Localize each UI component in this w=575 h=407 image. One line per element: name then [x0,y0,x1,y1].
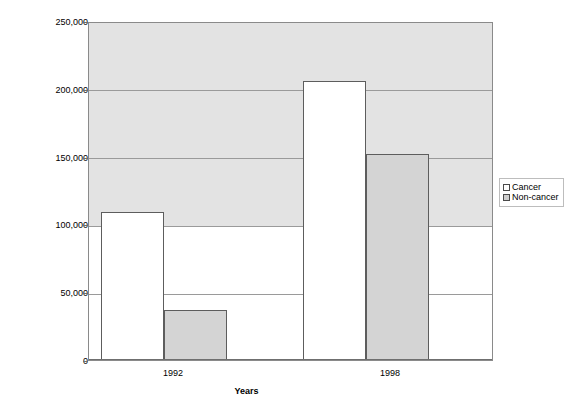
gridline-200000 [89,90,492,91]
plot-background-upper-band [89,23,492,226]
legend-label-cancer: Cancer [512,183,541,192]
y-tick-label-0: 0 [10,357,88,366]
x-axis-title-text: Years [234,386,258,396]
bar-cancer-1992 [101,212,164,360]
y-tick-label-250000: 250,000 [10,18,88,27]
x-tick-label-1992: 1992 [163,368,183,378]
bar-cancer-1998 [303,81,366,360]
gridline-150000 [89,158,492,159]
bar-chart: 250,000 200,000 150,000 100,000 50,000 0… [0,0,575,407]
y-tick-label-100000: 100,000 [10,221,88,230]
x-axis-baseline [89,359,492,360]
legend-label-noncancer: Non-cancer [512,193,559,202]
y-tick-mark-0 [83,361,88,362]
x-axis-title: Years [0,386,575,396]
white-square-swatch-icon [503,184,510,191]
plot-area [88,22,493,361]
bar-noncancer-1992 [164,310,227,360]
x-tick-label-1998: 1998 [380,368,400,378]
gray-square-swatch-icon [503,194,510,201]
y-tick-label-50000: 50,000 [10,289,88,298]
legend-item-noncancer[interactable]: Non-cancer [503,193,559,202]
y-axis: 250,000 200,000 150,000 100,000 50,000 0 [0,0,88,407]
legend: Cancer Non-cancer [499,178,564,207]
bar-noncancer-1998 [366,154,429,360]
y-tick-label-150000: 150,000 [10,154,88,163]
legend-item-cancer[interactable]: Cancer [503,183,559,192]
y-tick-label-200000: 200,000 [10,86,88,95]
